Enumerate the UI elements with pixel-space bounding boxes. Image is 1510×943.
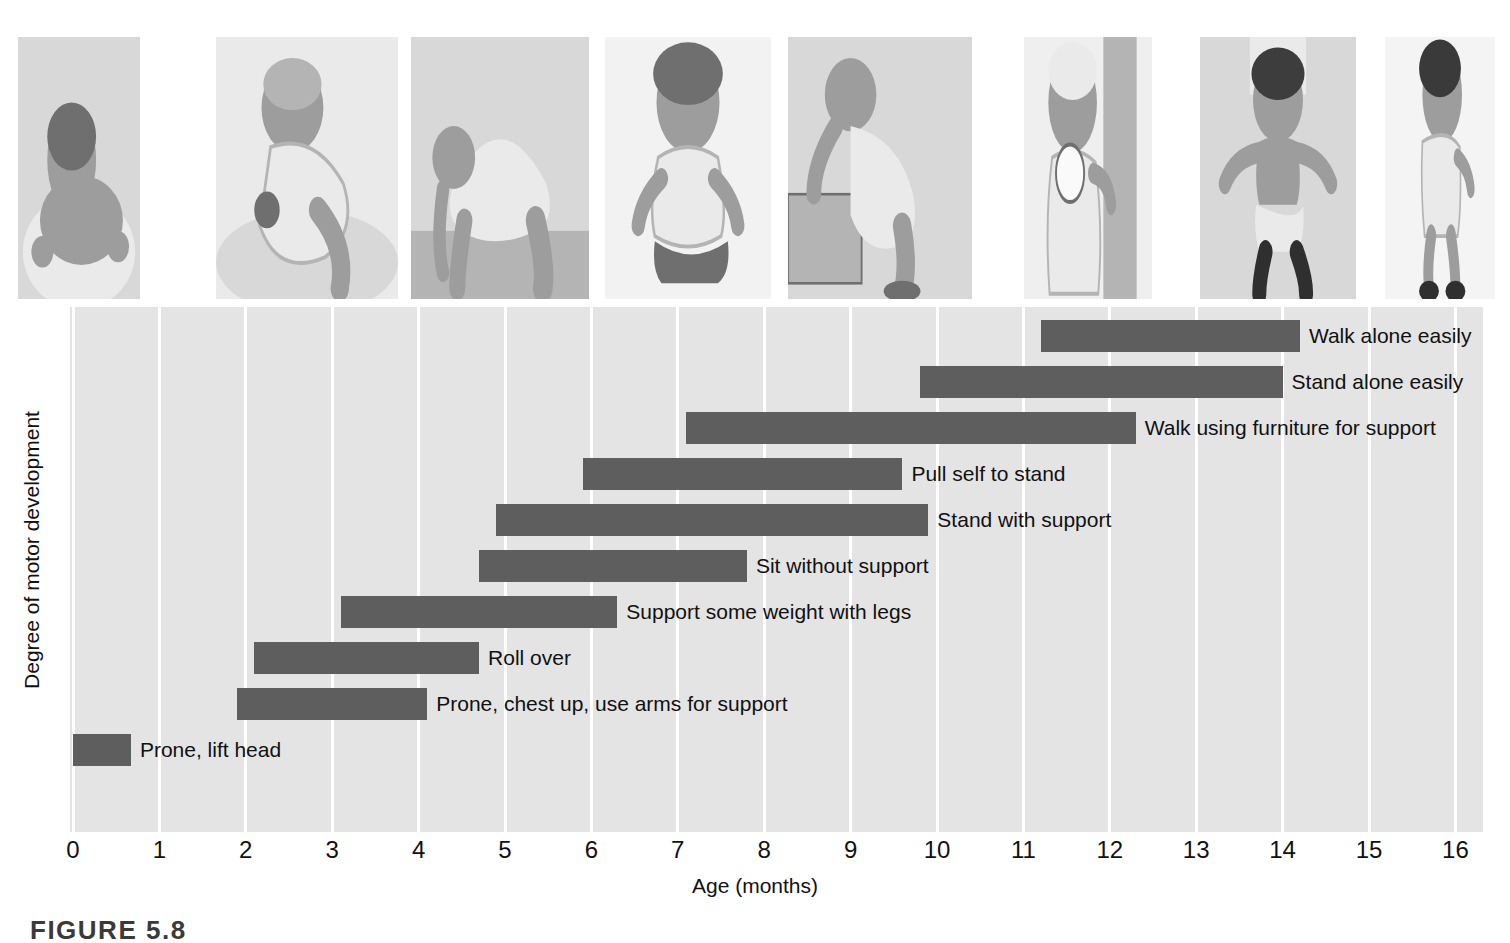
milestone-bar <box>479 550 747 582</box>
photo-support-weight-with-legs <box>411 37 589 299</box>
milestone-row: Prone, lift head <box>70 727 1483 773</box>
milestone-bar <box>73 734 131 766</box>
milestone-row: Sit without support <box>70 543 1483 589</box>
x-tick-label: 10 <box>924 836 951 864</box>
photo-walk-alone <box>1385 37 1495 299</box>
milestone-bar <box>254 642 479 674</box>
x-tick-label: 6 <box>585 836 598 864</box>
x-axis-ticks: 012345678910111213141516 <box>70 836 1483 870</box>
x-axis-title: Age (months) <box>0 874 1510 898</box>
milestone-row: Walk alone easily <box>70 313 1483 359</box>
x-tick-label: 13 <box>1183 836 1210 864</box>
x-tick-label: 16 <box>1442 836 1469 864</box>
milestone-label: Support some weight with legs <box>617 597 911 627</box>
milestone-bar <box>341 596 617 628</box>
milestone-row: Support some weight with legs <box>70 589 1483 635</box>
x-tick-label: 11 <box>1011 836 1036 864</box>
x-tick-label: 9 <box>844 836 857 864</box>
figure-caption: FIGURE 5.8 <box>30 915 187 943</box>
milestone-bar <box>1041 320 1300 352</box>
photo-sit-without-support <box>605 37 771 299</box>
milestone-label: Stand alone easily <box>1283 367 1464 397</box>
x-tick-label: 15 <box>1356 836 1383 864</box>
milestone-row: Stand with support <box>70 497 1483 543</box>
milestone-bar <box>583 458 903 490</box>
x-tick-label: 2 <box>239 836 252 864</box>
milestone-row: Walk using furniture for support <box>70 405 1483 451</box>
milestone-row: Roll over <box>70 635 1483 681</box>
milestone-label: Walk alone easily <box>1300 321 1472 351</box>
x-tick-label: 3 <box>326 836 339 864</box>
x-tick-label: 7 <box>671 836 684 864</box>
photo-roll-over <box>216 37 398 299</box>
photo-walk-with-help <box>1200 37 1356 299</box>
x-tick-label: 14 <box>1269 836 1296 864</box>
milestone-label: Pull self to stand <box>902 459 1065 489</box>
milestone-row: Prone, chest up, use arms for support <box>70 681 1483 727</box>
milestone-label: Sit without support <box>747 551 929 581</box>
x-tick-label: 1 <box>153 836 166 864</box>
milestone-row: Stand alone easily <box>70 359 1483 405</box>
photo-stand-with-support <box>1024 37 1152 299</box>
milestone-bar <box>237 688 427 720</box>
x-tick-label: 5 <box>498 836 511 864</box>
x-tick-label: 12 <box>1096 836 1123 864</box>
x-tick-label: 8 <box>758 836 771 864</box>
milestone-label: Prone, chest up, use arms for support <box>427 689 787 719</box>
chart-plot-area: Walk alone easilyStand alone easilyWalk … <box>70 307 1483 832</box>
milestone-label: Roll over <box>479 643 571 673</box>
photo-pull-self-to-stand <box>788 37 972 299</box>
x-tick-label: 0 <box>66 836 79 864</box>
x-tick-label: 4 <box>412 836 425 864</box>
milestone-bar <box>496 504 928 536</box>
milestone-bar <box>920 366 1283 398</box>
milestone-label: Prone, lift head <box>131 735 281 765</box>
photo-strip <box>0 0 1510 300</box>
photo-prone-lift-head <box>18 37 140 299</box>
y-axis-title: Degree of motor development <box>20 290 44 810</box>
milestone-bar <box>686 412 1135 444</box>
milestone-row: Pull self to stand <box>70 451 1483 497</box>
milestone-label: Walk using furniture for support <box>1136 413 1436 443</box>
milestone-label: Stand with support <box>928 505 1111 535</box>
